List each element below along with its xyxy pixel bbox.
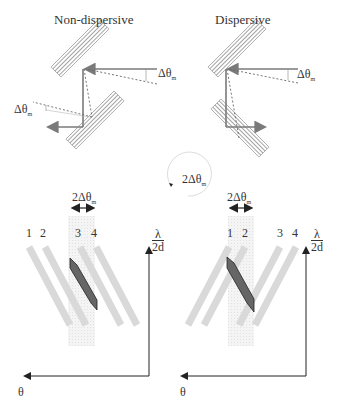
width-label-right: 2Δθm: [227, 190, 251, 205]
crystal-lower-left: [66, 91, 124, 149]
crystal-lower-right: [211, 99, 269, 157]
stripe-number: 1: [26, 226, 32, 241]
stripe-number: 3: [277, 226, 283, 241]
y-axis-label-left: λ2d: [152, 228, 164, 253]
title-nondispersive: Non-dispersive: [54, 12, 133, 28]
stripe-number: 2: [40, 226, 46, 241]
stripe-number: 4: [292, 226, 298, 241]
x-axis-label-right: θ: [180, 385, 186, 400]
delta-theta-lower-left: Δθm: [14, 102, 32, 117]
y-axis-label-right: λ2d: [311, 228, 323, 253]
stripe-number: 2: [242, 226, 248, 241]
diagram-canvas: [0, 0, 343, 412]
rotation-label: 2Δθm: [182, 172, 206, 187]
stripe-number: 1: [227, 226, 233, 241]
delta-theta-upper-left: Δθm: [158, 66, 176, 81]
nondispersive-setup: [33, 19, 157, 149]
dispersive-setup: [208, 19, 298, 157]
x-axis-label-left: θ: [18, 385, 24, 400]
stripe-number: 3: [75, 226, 81, 241]
title-dispersive: Dispersive: [215, 12, 271, 28]
stripe-number: 4: [91, 226, 97, 241]
delta-theta-upper-right: Δθm: [297, 67, 315, 82]
width-label-left: 2Δθm: [72, 190, 96, 205]
